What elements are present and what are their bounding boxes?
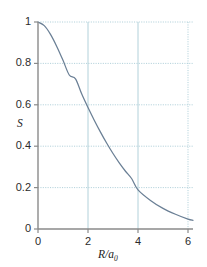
ytick-label-0_4: 0.4 [2,140,31,151]
ytick-label-0: 0 [8,223,31,234]
x-axis-title-subscript: 0 [114,254,118,263]
ytick-label-0_6: 0.6 [2,99,31,110]
x-axis-title-main: R/a [98,248,114,260]
ytick-label-0_8: 0.8 [2,57,31,68]
x-axis-title: R/a0 [98,249,118,263]
y-axis-title: S [17,118,23,130]
ytick-label-1: 1 [8,16,31,27]
xtick-label-6: 6 [178,236,198,247]
chart-canvas [0,0,207,267]
xtick-label-4: 4 [128,236,148,247]
xtick-label-0: 0 [28,236,48,247]
ytick-label-0_2: 0.2 [2,182,31,193]
chart-figure: 1 0.8 0.6 0.4 0.2 0 0 2 4 6 S R/a0 [0,0,207,267]
plot-background [38,22,193,229]
xtick-label-2: 2 [78,236,98,247]
